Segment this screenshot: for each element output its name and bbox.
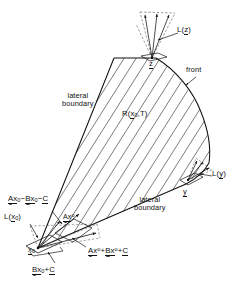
region-hatching (0, 0, 247, 286)
cone-z-label: L(z) (177, 26, 191, 35)
reachable-set-figure: L(z) z front lateral boundary R(x0,T) L(… (0, 0, 247, 286)
point-x0-label: x0 (28, 246, 35, 255)
point-y-label: y (183, 188, 187, 197)
cone-x0-label: L(x0) (4, 213, 21, 222)
diagram-canvas (0, 0, 247, 286)
formula-lower-right: Axo+Bxo+C (88, 246, 128, 256)
formula-ax-label: Axo (63, 212, 75, 222)
front-label: front (186, 66, 201, 74)
region-label: R(x0,T) (122, 110, 148, 119)
lateral-boundary-upper-label: lateral boundary (62, 92, 94, 108)
lateral-boundary-lower-label: lateral boundary (134, 196, 166, 212)
formula-bottom: Bx0+C (32, 266, 55, 275)
vector-c: C (42, 195, 48, 204)
formula-upper-left: Ax0−Bx0−C (8, 195, 48, 204)
cone-at-z (136, 12, 178, 61)
point-z-label: z (149, 60, 153, 69)
cone-y-label: L(y) (212, 170, 226, 179)
front-leader (186, 77, 196, 85)
